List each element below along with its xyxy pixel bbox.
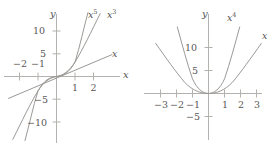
even-powers-plot-svg [136,0,272,146]
even-powers-plot-panel: y −3 −2 −1 1 2 3 10 5 −5 x4 x [136,0,272,146]
odd-powers-plot-svg [0,0,136,146]
power-functions-figure: y x −2 −1 1 2 10 5 −5 −10 x5 x3 x [0,0,272,146]
odd-powers-plot-panel: y x −2 −1 1 2 10 5 −5 −10 x5 x3 x [0,0,136,146]
axes-group [4,14,120,143]
axes-group [144,14,262,140]
